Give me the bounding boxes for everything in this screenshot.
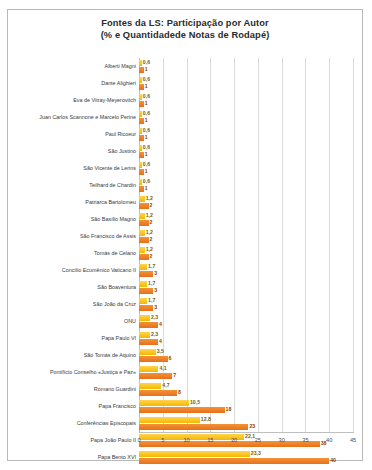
axis-tick-label: 0 (137, 437, 140, 443)
value-label-percent: 4,7 (162, 382, 169, 388)
category-label: ONU (10, 313, 136, 330)
value-label-footnotes: 23 (249, 423, 255, 429)
category-label: Papa Francisco (10, 398, 136, 415)
bar-percent[interactable] (139, 332, 150, 338)
category-label: Romano Guardini (10, 381, 136, 398)
bar-percent[interactable] (139, 383, 161, 389)
bar-footnotes[interactable] (139, 254, 149, 260)
bar-footnotes[interactable] (139, 118, 144, 124)
bar-percent[interactable] (139, 298, 147, 304)
category-label: Conferências Episcopais (10, 415, 136, 432)
category-label: Pontifício Conselho «Justiça e Paz» (10, 364, 136, 381)
bar-group: 10,518 (139, 399, 353, 414)
bar-percent[interactable] (139, 451, 250, 457)
x-axis-line (139, 432, 354, 433)
bar-group: 4,17 (139, 365, 353, 380)
x-axis-ticks: 051015202530354045 (139, 436, 353, 448)
bar-percent[interactable] (139, 60, 142, 66)
bar-footnotes[interactable] (139, 373, 172, 379)
bar-percent[interactable] (139, 162, 142, 168)
bar-group: 1,73 (139, 297, 353, 312)
bar-percent[interactable] (139, 128, 142, 134)
chart-row: Concílio Ecumênico Vaticano II1,73 (139, 262, 353, 279)
bar-footnotes[interactable] (139, 135, 144, 141)
category-label: Tomás de Celano (10, 245, 136, 262)
bar-footnotes[interactable] (139, 84, 144, 90)
bar-footnotes[interactable] (139, 288, 153, 294)
bar-group: 1,22 (139, 195, 353, 210)
bar-group: 1,22 (139, 212, 353, 227)
bar-group: 0,61 (139, 59, 353, 74)
category-label: São Vicente de Lerins (10, 160, 136, 177)
bar-footnotes[interactable] (139, 356, 168, 362)
bar-footnotes[interactable] (139, 458, 329, 464)
bar-percent[interactable] (139, 213, 145, 219)
chart-title: Fontes da LS: Participação por Autor (% … (8, 10, 362, 41)
bar-percent[interactable] (139, 247, 145, 253)
value-label-footnotes: 2 (150, 236, 153, 242)
value-label-footnotes: 1 (145, 134, 148, 140)
bar-percent[interactable] (139, 94, 142, 100)
bar-percent[interactable] (139, 315, 150, 321)
bar-percent[interactable] (139, 264, 147, 270)
category-label: Dante Alighieri (10, 75, 136, 92)
bar-footnotes[interactable] (139, 237, 149, 243)
axis-tick-label: 10 (183, 437, 189, 443)
bar-percent[interactable] (139, 77, 142, 83)
category-label: São Tomás de Aquino (10, 347, 136, 364)
bar-percent[interactable] (139, 179, 142, 185)
bar-footnotes[interactable] (139, 271, 153, 277)
bar-footnotes[interactable] (139, 407, 225, 413)
category-label: Concílio Ecumênico Vaticano II (10, 262, 136, 279)
value-label-percent: 0,6 (143, 144, 150, 150)
bar-footnotes[interactable] (139, 390, 177, 396)
bar-footnotes[interactable] (139, 67, 144, 73)
bar-footnotes[interactable] (139, 203, 149, 209)
bar-footnotes[interactable] (139, 169, 144, 175)
value-label-percent: 0,6 (143, 76, 150, 82)
value-label-percent: 23,3 (251, 450, 261, 456)
category-label: Eva de Vitray-Meyerovitch (10, 92, 136, 109)
value-label-footnotes: 3 (154, 304, 157, 310)
bar-footnotes[interactable] (139, 220, 149, 226)
bar-percent[interactable] (139, 366, 158, 372)
bar-group: 3,56 (139, 348, 353, 363)
bar-footnotes[interactable] (139, 339, 158, 345)
bar-percent[interactable] (139, 400, 189, 406)
value-label-footnotes: 2 (150, 253, 153, 259)
bar-footnotes[interactable] (139, 424, 248, 430)
value-label-percent: 12,8 (201, 416, 211, 422)
chart-title-line-1: Fontes da LS: Participação por Autor (101, 18, 269, 28)
chart-container: Fontes da LS: Participação por Autor (% … (7, 9, 363, 461)
chart-row: São Vicente de Lerins0,61 (139, 160, 353, 177)
bar-group: 2,34 (139, 331, 353, 346)
value-label-footnotes: 40 (330, 457, 336, 463)
value-label-percent: 1,2 (146, 229, 153, 235)
value-label-footnotes: 1 (145, 151, 148, 157)
bar-footnotes[interactable] (139, 305, 153, 311)
bar-footnotes[interactable] (139, 186, 144, 192)
bar-footnotes[interactable] (139, 322, 158, 328)
bar-percent[interactable] (139, 111, 142, 117)
bar-footnotes[interactable] (139, 152, 144, 158)
chart-row: Alberti Magni0,61 (139, 58, 353, 75)
bar-group: 4,78 (139, 382, 353, 397)
category-label: São Francisco de Assis (10, 228, 136, 245)
bar-percent[interactable] (139, 196, 145, 202)
bar-group: 0,61 (139, 144, 353, 159)
bar-footnotes[interactable] (139, 101, 144, 107)
bar-group: 0,61 (139, 76, 353, 91)
bar-percent[interactable] (139, 281, 147, 287)
category-label: Papa Bento XVI (10, 449, 136, 466)
bar-percent[interactable] (139, 417, 200, 423)
category-label: São Justino (10, 143, 136, 160)
bar-percent[interactable] (139, 349, 156, 355)
value-label-percent: 0,6 (143, 59, 150, 65)
bar-percent[interactable] (139, 145, 142, 151)
category-label: São João da Cruz (10, 296, 136, 313)
plot-area: Alberti Magni0,61Dante Alighieri0,61Eva … (8, 54, 362, 436)
bar-percent[interactable] (139, 230, 145, 236)
value-label-footnotes: 3 (154, 270, 157, 276)
chart-row: São Basílio Magno1,22 (139, 211, 353, 228)
bar-group: 0,61 (139, 110, 353, 125)
